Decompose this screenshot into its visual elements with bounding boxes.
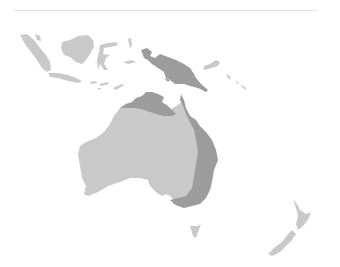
region-sumatra-islet: [35, 34, 41, 41]
region-solomon-2: [240, 84, 246, 90]
region-borneo: [61, 35, 94, 64]
region-new-britain: [204, 60, 220, 70]
region-sulawesi: [97, 42, 118, 70]
region-nz-south: [268, 230, 296, 256]
oceania-map: [0, 0, 340, 267]
region-lesser-sunda-3: [113, 84, 124, 90]
region-nz-north: [293, 199, 311, 230]
region-tasmania: [190, 224, 201, 238]
region-new-guinea: [141, 48, 208, 92]
region-lesser-sunda-1: [90, 81, 97, 84]
region-solomon-3: [236, 80, 239, 84]
region-australia-west-central: [78, 102, 202, 200]
region-lesser-sunda-2: [99, 82, 109, 86]
region-maluku-2: [123, 60, 136, 64]
region-java: [48, 73, 82, 83]
region-maluku: [128, 38, 132, 48]
region-solomon-1: [226, 74, 231, 80]
region-lesser-sunda-4: [97, 88, 101, 90]
region-sumatra: [20, 34, 51, 72]
